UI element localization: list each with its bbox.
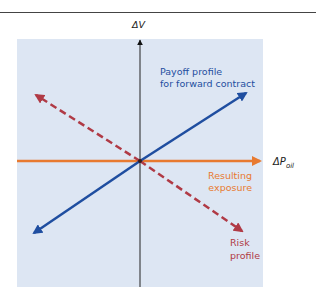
payoff-profile-label: Payoff profile for forward contract	[160, 66, 255, 90]
risk-label-line1: Risk	[230, 236, 260, 249]
origin-point	[138, 159, 142, 163]
x-axis-label-main: ΔP	[273, 156, 286, 167]
hedging-diagram	[0, 0, 316, 296]
risk-profile-label: Risk profile	[230, 236, 260, 262]
payoff-profile-line-lower	[34, 161, 140, 233]
y-axis-label: ΔV	[132, 19, 145, 30]
payoff-label-line1: Payoff profile	[160, 66, 255, 78]
risk-label-line2: profile	[230, 249, 260, 262]
resulting-label-line2: exposure	[204, 182, 252, 194]
resulting-label-line1: Resulting	[204, 170, 252, 182]
x-axis-label: ΔPoil	[273, 156, 294, 172]
payoff-profile-line	[140, 93, 246, 161]
x-axis-label-sub: oil	[286, 162, 294, 170]
risk-profile-line-upper	[36, 95, 140, 161]
resulting-exposure-label: Resulting exposure	[204, 170, 252, 194]
payoff-label-line2: for forward contract	[160, 78, 255, 90]
